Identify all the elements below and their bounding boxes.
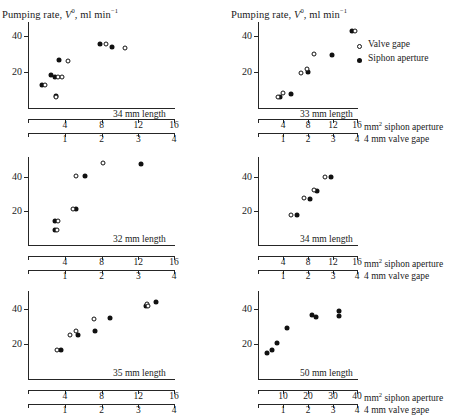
y-axis-line [258,157,259,245]
axis-end-label: mm2 siphon aperture [364,121,443,133]
ruler-end-cap [258,133,259,137]
valve-gape-axis: 12344 mm valve gape [258,404,358,405]
ruler-tick-label: 4 [355,406,360,416]
y-tick [24,177,28,178]
siphon-aperture-axis: 481216 [28,390,175,391]
ruler-tick-label: 3 [136,135,141,145]
y-tick [254,36,258,37]
ruler-tick-label: 2 [99,135,104,145]
ruler-tick-label: 3 [331,135,336,145]
ruler-end-cap [28,256,29,260]
data-point-valve-gape [322,175,327,180]
data-point-valve-gape [146,303,151,308]
ruler-tick-label: 3 [136,406,141,416]
data-point-siphon-aperture [295,212,300,217]
data-point-siphon-aperture [313,314,318,319]
ruler-tick-label: 16 [352,258,362,268]
y-tick-label: 40 [242,304,252,314]
plot-area: 204033 mm length [258,22,358,108]
y-axis-line [28,291,29,379]
y-axis-line [28,157,29,245]
valve-gape-axis: 1234 [28,404,175,405]
data-point-siphon-aperture [330,53,335,58]
data-point-valve-gape [305,66,310,71]
y-tick-label: 20 [242,67,252,77]
ruler-tick-label: 4 [355,272,360,282]
ruler-tick-label: 16 [169,258,179,268]
ruler-tick-label: 16 [352,121,362,131]
data-point-valve-gape [55,347,60,352]
axis-end-label: 4 mm valve gape [364,135,429,145]
ruler-end-cap [28,133,29,137]
ruler-end-cap [258,270,259,274]
ruler-tick-label: 8 [306,121,311,131]
ruler-tick-label: 30 [328,392,338,402]
ruler-tick-label: 1 [62,272,67,282]
valve-gape-axis: 12344 mm valve gape [258,270,358,271]
ruler-tick-label: 4 [355,135,360,145]
ruler-tick-label: 2 [306,272,311,282]
siphon-aperture-axis: 481216 [28,256,175,257]
ruler-tick-label: 2 [99,406,104,416]
ruler-tick-label: 12 [134,258,144,268]
data-point-siphon-aperture [288,91,293,96]
siphon-aperture-axis: 10203040mm2 siphon aperture [258,390,358,391]
valve-gape-axis: 1234 [28,133,175,134]
data-point-valve-gape [54,95,59,100]
ruler-tick-label: 4 [62,258,67,268]
x-axis-line [258,379,358,380]
ruler-tick-label: 2 [99,272,104,282]
data-point-valve-gape [288,212,293,217]
ruler-tick-label: 4 [281,258,286,268]
y-tick [24,344,28,345]
data-point-siphon-aperture [57,57,62,62]
data-point-valve-gape [101,160,106,165]
axis-end-label: 4 mm valve gape [364,406,429,416]
ruler-tick-label: 2 [306,406,311,416]
plot-area: 204034 mm length [258,157,358,245]
panel-title-panel-50mm: 50 mm length [300,369,353,379]
data-point-valve-gape [312,52,317,57]
x-axis-line [258,108,358,109]
y-tick-label: 20 [12,67,22,77]
y-axis-line [258,291,259,379]
y-tick [24,72,28,73]
ruler-tick-label: 12 [134,121,144,131]
ruler-tick-label: 12 [134,392,144,402]
y-axis-line [28,22,29,108]
data-point-siphon-aperture [284,325,289,330]
ruler-end-cap [258,390,259,394]
chart-panel-panel-34mm-b: 204034 mm length481216mm2 siphon apertur… [258,157,358,245]
siphon-aperture-axis: 481216mm2 siphon aperture [258,119,358,120]
ruler-end-cap [28,404,29,408]
y-tick [254,177,258,178]
ruler-tick-label: 4 [62,121,67,131]
data-point-siphon-aperture [107,316,112,321]
ruler-tick-label: 3 [136,272,141,282]
data-point-siphon-aperture [274,340,279,345]
data-point-siphon-aperture [269,347,274,352]
ruler-end-cap [28,270,29,274]
y-tick-label: 20 [12,206,22,216]
chart-panel-panel-35mm: 204035 mm length4812161234 [28,291,175,379]
ruler-tick-label: 1 [281,272,286,282]
data-point-valve-gape [302,196,307,201]
data-point-valve-gape [55,227,60,232]
data-point-valve-gape [298,71,303,76]
valve-gape-axis: 1234 [28,270,175,271]
ruler-tick-label: 4 [281,121,286,131]
ruler-tick-label: 4 [62,392,67,402]
ruler-tick-label: 1 [281,406,286,416]
data-point-valve-gape [71,207,76,212]
chart-panel-panel-33mm: 204033 mm length481216mm2 siphon apertur… [258,22,358,108]
data-point-valve-gape [104,41,109,46]
data-point-siphon-aperture [109,45,114,50]
ruler-end-cap [258,404,259,408]
ruler-tick-label: 20 [303,392,313,402]
y-tick [254,344,258,345]
y-tick [254,309,258,310]
data-point-valve-gape [123,45,128,50]
data-point-valve-gape [352,28,357,33]
ruler-end-cap [258,119,259,123]
y-tick-label: 20 [242,206,252,216]
